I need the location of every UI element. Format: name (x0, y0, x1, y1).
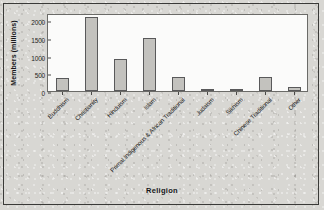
x-tick-mark (207, 92, 208, 95)
bar[interactable] (201, 89, 214, 91)
y-tick-label: 2000 (31, 19, 48, 26)
y-tick-label: 1000 (31, 54, 48, 61)
x-tick-mark (294, 92, 295, 95)
y-tick-text: 500 (35, 72, 48, 79)
y-tick-mark (48, 57, 51, 58)
y-tick-text: 2000 (31, 19, 48, 26)
chart-screenshot: Members (millions) 0500100015002000 Budd… (0, 0, 324, 210)
x-tick-mark (149, 92, 150, 95)
y-tick-mark (48, 93, 51, 94)
x-category-label: Buddhism (46, 96, 70, 120)
x-category-label: Islam (141, 96, 156, 111)
x-tick-mark (236, 92, 237, 95)
bar[interactable] (259, 77, 272, 91)
y-tick-text: 1000 (31, 54, 48, 61)
bar[interactable] (56, 78, 69, 91)
y-tick-text: 1500 (31, 36, 48, 43)
plot-inner: 0500100015002000 (48, 15, 307, 91)
y-tick-mark (48, 22, 51, 23)
bar[interactable] (288, 87, 301, 91)
bar[interactable] (143, 38, 156, 91)
bar[interactable] (114, 59, 127, 91)
x-tick-mark (91, 92, 92, 95)
x-category-label: Hinduism (105, 96, 128, 119)
x-tick-mark (178, 92, 179, 95)
bar[interactable] (230, 89, 243, 91)
bar[interactable] (85, 17, 98, 91)
x-category-label: Other (286, 96, 302, 112)
x-tick-mark (62, 92, 63, 95)
x-category-label: Sikhism (224, 96, 244, 116)
x-tick-mark (120, 92, 121, 95)
x-category-label: Judaism (194, 96, 215, 117)
y-tick-label: 1500 (31, 36, 48, 43)
x-axis-title: Religion (0, 186, 324, 195)
y-tick-mark (48, 39, 51, 40)
y-axis-title: Members (millions) (10, 20, 17, 86)
x-tick-mark (265, 92, 266, 95)
y-tick-mark (48, 75, 51, 76)
x-category-label: Christianity (73, 96, 99, 122)
y-tick-label: 500 (35, 72, 48, 79)
bar-chart-figure: Members (millions) 0500100015002000 Budd… (0, 0, 324, 210)
plot-area: 0500100015002000 (47, 14, 308, 92)
bar[interactable] (172, 77, 185, 91)
